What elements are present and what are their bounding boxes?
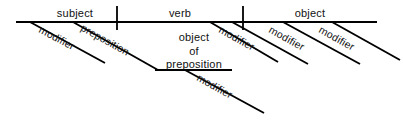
label-verb: verb: [169, 7, 191, 19]
label-oop-modifier: modifier: [195, 71, 235, 101]
label-object: object: [295, 7, 326, 19]
label-verb-modifier: modifier: [217, 23, 257, 53]
label-object-line-3: preposition: [166, 58, 222, 70]
label-object-modifier-1: modifier: [267, 23, 307, 53]
label-object-line-2: of: [189, 45, 199, 57]
label-subject-modifier: modifier: [37, 23, 77, 52]
label-object-line-1: object: [179, 31, 210, 43]
sentence-diagram-canvas: subjectverbobjectobjectofprepositionmodi…: [0, 0, 403, 124]
sentence-diagram: subjectverbobjectobjectofprepositionmodi…: [0, 0, 403, 124]
label-subject: subject: [57, 7, 93, 19]
label-object-modifier-2: modifier: [317, 23, 357, 53]
